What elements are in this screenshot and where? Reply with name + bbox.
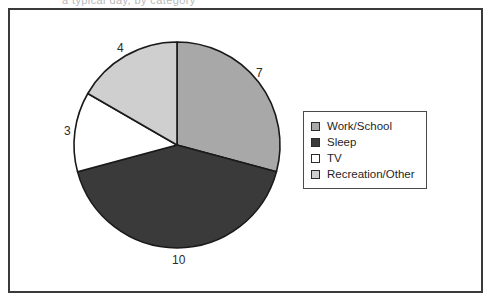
legend-label-work-school: Work/School	[327, 118, 392, 134]
legend-swatch-work-school	[311, 122, 320, 131]
legend-item-tv: TV	[311, 150, 418, 166]
slice-label-tv: 3	[64, 124, 71, 138]
legend-item-recreation-other: Recreation/Other	[311, 166, 418, 182]
pie-slices	[74, 42, 280, 248]
legend-item-sleep: Sleep	[311, 134, 418, 150]
slice-label-recreation-other: 4	[117, 41, 124, 55]
legend-item-work-school: Work/School	[311, 118, 418, 134]
legend-swatch-sleep	[311, 138, 320, 147]
legend-label-tv: TV	[327, 150, 342, 166]
legend-swatch-recreation-other	[311, 170, 320, 179]
legend-label-sleep: Sleep	[327, 134, 356, 150]
slice-label-work-school: 7	[256, 66, 263, 80]
legend-swatch-tv	[311, 154, 320, 163]
legend-label-recreation-other: Recreation/Other	[327, 166, 415, 182]
pie-chart-figure: a typical day, by category 7 10 3 4 Work…	[0, 0, 493, 305]
chart-legend: Work/School Sleep TV Recreation/Other	[303, 111, 427, 189]
slice-label-sleep: 10	[172, 253, 185, 267]
